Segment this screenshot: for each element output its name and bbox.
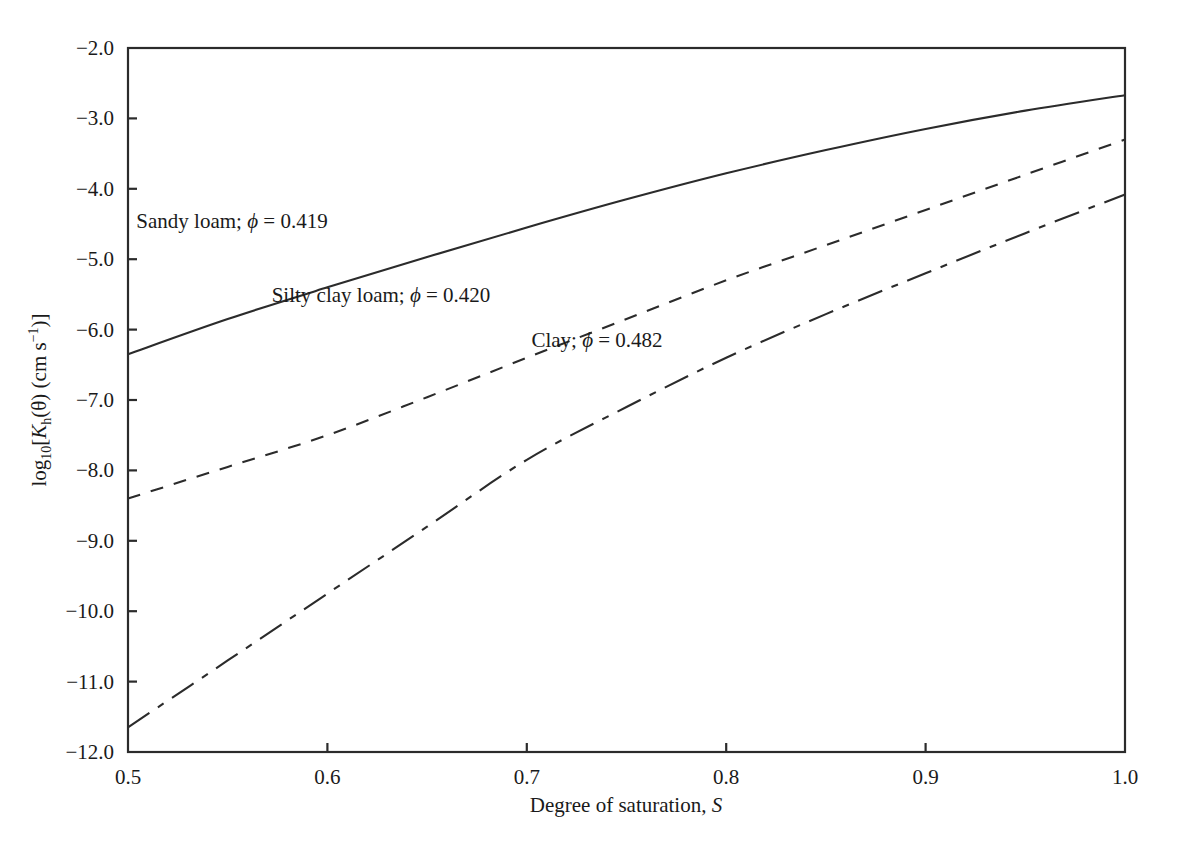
silty-clay-loam-annotation: Silty clay loam; ϕ = 0.420 bbox=[272, 283, 491, 307]
y-tick-label: −8.0 bbox=[76, 458, 114, 482]
y-tick-label: −5.0 bbox=[76, 247, 114, 271]
sandy-loam-annotation: Sandy loam; ϕ = 0.419 bbox=[136, 209, 327, 233]
x-tick-label: 1.0 bbox=[1112, 765, 1138, 789]
hydraulic-conductivity-line-chart: −2.0−3.0−4.0−5.0−6.0−7.0−8.0−9.0−10.0−11… bbox=[0, 0, 1177, 847]
y-tick-label: −6.0 bbox=[76, 318, 114, 342]
y-tick-label: −7.0 bbox=[76, 388, 114, 412]
x-tick-label: 0.6 bbox=[314, 765, 340, 789]
chart-figure: −2.0−3.0−4.0−5.0−6.0−7.0−8.0−9.0−10.0−11… bbox=[0, 0, 1177, 847]
x-tick-label: 0.8 bbox=[713, 765, 739, 789]
x-axis-title: Degree of saturation, S bbox=[530, 793, 723, 817]
y-tick-label: −4.0 bbox=[76, 177, 114, 201]
y-tick-label: −9.0 bbox=[76, 529, 114, 553]
y-tick-label: −2.0 bbox=[76, 36, 114, 60]
figure-background bbox=[0, 0, 1177, 847]
y-tick-label: −12.0 bbox=[65, 740, 114, 764]
x-tick-label: 0.5 bbox=[115, 765, 141, 789]
x-tick-label: 0.7 bbox=[514, 765, 540, 789]
x-tick-label: 0.9 bbox=[912, 765, 938, 789]
y-tick-label: −3.0 bbox=[76, 106, 114, 130]
clay-annotation: Clay; ϕ = 0.482 bbox=[531, 328, 662, 352]
y-tick-label: −11.0 bbox=[66, 670, 114, 694]
y-tick-label: −10.0 bbox=[65, 599, 114, 623]
